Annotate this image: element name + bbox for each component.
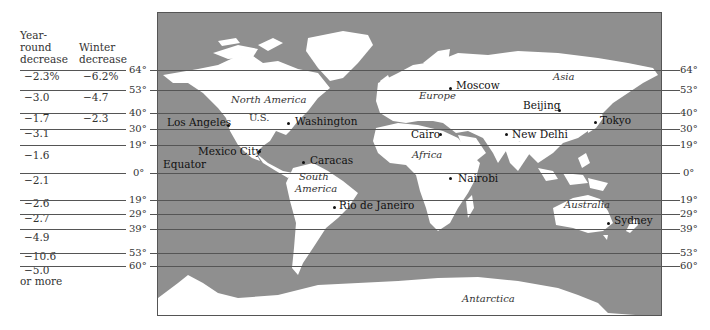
region-label: Antarctica [462, 293, 515, 304]
latitude-line-left [20, 253, 126, 254]
region-label: Europe [419, 90, 456, 101]
city-label: Moscow [456, 79, 500, 91]
continents-graphic [158, 13, 662, 316]
city-marker [333, 206, 336, 209]
city-marker [287, 122, 290, 125]
world-map: North AmericaU.S.EuropeAsiaAfricaSouthAm… [157, 12, 662, 316]
latitude-label-left: 53° [129, 247, 147, 258]
latitude-label-right: 39° [680, 223, 698, 234]
city-marker [449, 87, 452, 90]
latitude-line-left [20, 214, 126, 215]
region-label: Australia [564, 199, 610, 210]
region-label: South [299, 171, 329, 182]
latitude-label-right: 29° [680, 208, 698, 219]
header-line: decrease [79, 53, 127, 65]
latitude-label-left: 64° [129, 64, 147, 75]
city-label: Sydney [614, 214, 653, 226]
latitude-line-left [20, 266, 126, 267]
header-line: Year- [20, 29, 68, 41]
latitude-label-right: 19° [680, 139, 698, 150]
latitude-line-left [20, 113, 126, 114]
year-round-value: −2.1 [24, 174, 50, 186]
latitude-label-left: 0° [133, 167, 144, 178]
year-round-value: −2.3% [24, 70, 59, 82]
latitude-line [150, 253, 680, 254]
city-marker [505, 133, 508, 136]
city-label: Rio de Janeiro [339, 199, 414, 211]
year-round-header: Year- round decrease [20, 29, 68, 65]
latitude-label-right: 0° [683, 167, 694, 178]
city-marker [302, 161, 305, 164]
city-label: Beijing [523, 99, 560, 111]
city-label: Los Angeles [167, 116, 231, 128]
latitude-label-left: 19° [129, 194, 147, 205]
latitude-line-left [20, 200, 126, 201]
region-label: America [295, 183, 337, 194]
winter-header: Winter decrease [79, 41, 127, 65]
latitude-line-left [20, 129, 126, 130]
region-label: Africa [412, 149, 442, 160]
city-label: Cairo [411, 128, 440, 140]
latitude-label-left: 60° [129, 260, 147, 271]
header-line: decrease [20, 53, 68, 65]
antarctica-shape [158, 275, 662, 316]
city-marker [594, 121, 597, 124]
city-marker [607, 222, 610, 225]
latitude-label-right: 60° [680, 260, 698, 271]
year-round-value: −4.9 [24, 231, 50, 243]
latitude-label-left: 39° [129, 223, 147, 234]
city-label: Caracas [310, 154, 353, 166]
latitude-label-left: 40° [129, 107, 147, 118]
city-label: New Delhi [512, 128, 568, 140]
latitude-line-left [20, 229, 126, 230]
latitude-line [150, 266, 680, 267]
year-round-value: or more [20, 275, 62, 287]
latitude-line-left [20, 173, 126, 174]
year-round-value: −2.6 [24, 197, 50, 209]
region-label: Asia [553, 71, 575, 82]
latitude-line-left [20, 145, 126, 146]
latitude-line [150, 214, 680, 215]
latitude-label-left: 53° [129, 84, 147, 95]
city-label: Washington [295, 115, 357, 127]
latitude-label-right: 53° [680, 84, 698, 95]
latitude-label-right: 30° [680, 123, 698, 134]
latitude-line [150, 229, 680, 230]
region-label: U.S. [249, 112, 269, 123]
latitude-line [150, 90, 680, 91]
latitude-line-left [20, 90, 126, 91]
latitude-label-right: 53° [680, 247, 698, 258]
latitude-line-left [20, 70, 126, 71]
latitude-label-left: 29° [129, 208, 147, 219]
city-label: Mexico City [198, 145, 261, 157]
city-label: Equator [163, 158, 206, 170]
latitude-label-right: 64° [680, 64, 698, 75]
latitude-label-left: 19° [129, 139, 147, 150]
city-label: Tokyo [600, 114, 631, 126]
latitude-label-left: 30° [129, 123, 147, 134]
winter-value: −6.2% [83, 70, 118, 82]
latitude-line [150, 70, 680, 71]
header-line: round [20, 41, 68, 53]
latitude-line [150, 173, 680, 174]
latitude-label-right: 19° [680, 194, 698, 205]
winter-value: −4.7 [83, 91, 109, 103]
region-label: North America [231, 94, 306, 105]
city-marker [449, 177, 452, 180]
year-round-value: −1.6 [24, 149, 50, 161]
year-round-value: −10.6 [24, 250, 56, 262]
header-line: Winter [79, 41, 127, 53]
city-label: Nairobi [458, 172, 498, 184]
year-round-value: −3.0 [24, 91, 50, 103]
latitude-label-right: 40° [680, 107, 698, 118]
